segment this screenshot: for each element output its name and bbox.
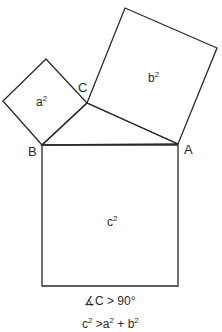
triangle-abc <box>42 103 178 145</box>
caption-angle: ∡C > 90° <box>84 294 136 308</box>
label-b-squared: b2 <box>148 70 160 85</box>
vertex-label-b: B <box>28 144 37 159</box>
vertex-label-a: A <box>184 142 193 157</box>
vertex-label-c: C <box>78 80 87 95</box>
label-a-squared: a2 <box>36 94 48 109</box>
caption-inequality: c2 >a2 + b2 <box>82 316 139 331</box>
obtuse-triangle-squares-diagram: B A C a2 b2 c2 ∡C > 90° c2 >a2 + b2 <box>0 0 222 332</box>
label-c-squared: c2 <box>107 214 118 229</box>
